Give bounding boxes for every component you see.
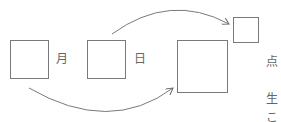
- month-label: 月: [56, 52, 68, 66]
- arrow-month-to-large-box: [29, 88, 173, 112]
- day-label: 日: [134, 52, 146, 66]
- month-box: [10, 40, 49, 79]
- side-label-3: こ: [266, 111, 278, 122]
- large-target-box: [177, 40, 228, 93]
- small-target-box: [233, 17, 259, 43]
- side-label-2: 生: [266, 92, 278, 106]
- side-label-1: 点: [266, 55, 278, 69]
- day-box: [87, 40, 126, 79]
- arrow-day-to-small-box: [112, 10, 229, 34]
